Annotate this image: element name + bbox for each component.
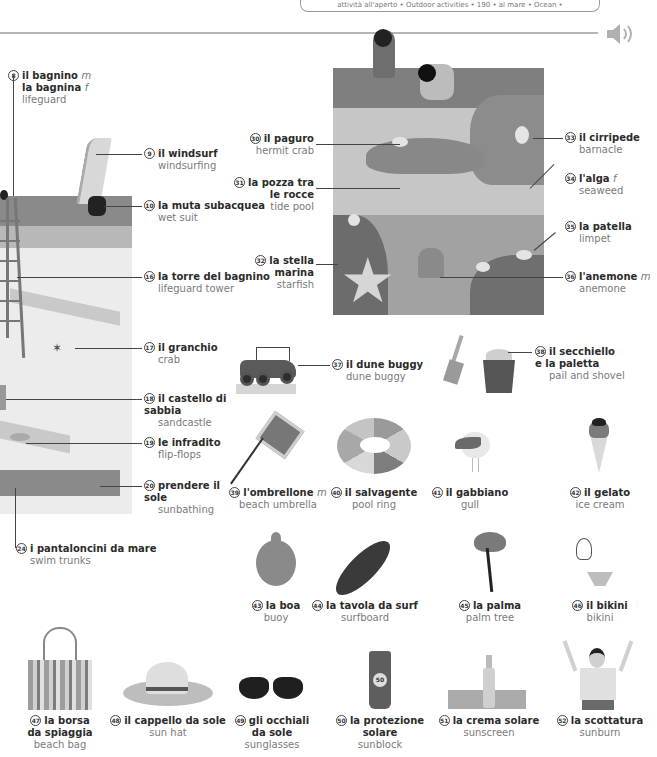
crab-figure: ✶ <box>52 342 72 354</box>
tower-rung <box>0 220 20 222</box>
leader-line <box>316 144 400 145</box>
label-windsurfing: 9il windsurf windsurfing <box>144 148 218 172</box>
chocolate-topping <box>592 418 606 426</box>
beach-bag-illustration <box>28 660 92 710</box>
sand <box>486 349 512 361</box>
ring-hole <box>360 437 390 453</box>
label-pool-ring: 40il salvagente pool ring <box>324 487 424 511</box>
label-anemone: 36l'anemone m anemone <box>565 271 651 295</box>
child-head <box>374 29 392 47</box>
label-sunscreen: 51la crema solare sunscreen <box>436 715 542 739</box>
label-limpet: 35la patella limpet <box>565 221 632 245</box>
header-rule <box>0 32 598 34</box>
tower-rung <box>0 300 20 302</box>
label-gull: 41il gabbiano gull <box>420 487 520 511</box>
bottle-cap <box>486 655 492 669</box>
leader-line <box>298 365 330 366</box>
label-bikini: 46il bikini bikini <box>550 600 650 624</box>
sunburn-illustration <box>580 668 616 700</box>
bikini-bottom-illustration <box>587 572 613 586</box>
palm-tree-illustration <box>474 532 506 552</box>
leader-line <box>26 443 142 444</box>
bikini-top-illustration <box>576 538 592 560</box>
label-sunblock: 50la protezione solare sunblock <box>335 715 425 751</box>
spf-badge: 50 <box>373 673 387 687</box>
leader-line <box>15 488 16 548</box>
leader-line <box>96 154 142 155</box>
label-sunburn: 52la scottatura sunburn <box>548 715 652 739</box>
tower-rung <box>0 280 20 282</box>
label-tide-pool: 31la pozza tra le rocce tide pool <box>230 177 314 213</box>
label-sunglasses: 49gli occhiali da sole sunglasses <box>230 715 314 751</box>
gull-leg <box>472 458 473 472</box>
label-starfish: 32la stella marina starfish <box>240 255 314 291</box>
speaker-icon[interactable] <box>605 22 637 46</box>
rock <box>470 95 544 185</box>
leader-line <box>533 138 563 139</box>
wheel <box>256 372 270 386</box>
sunglasses-illustration <box>239 677 269 699</box>
cone <box>590 435 608 473</box>
label-beach-umbrella: 39l'ombrellone m beach umbrella <box>228 487 328 511</box>
tower-leg <box>6 198 9 338</box>
label-sunbathing: 20prendere il sole sunbathing <box>144 480 224 516</box>
anemone-figure <box>418 248 444 278</box>
umbrella-pole <box>230 437 264 484</box>
child-head <box>418 64 436 82</box>
roll-cage <box>256 347 290 361</box>
sunglasses-lens <box>273 677 303 699</box>
shell <box>476 262 490 272</box>
shore-area <box>0 226 132 248</box>
shorts <box>582 700 614 710</box>
leader-line <box>100 486 142 487</box>
label-lifeguard: 8il bagnino m la bagnina f lifeguard <box>8 70 91 106</box>
wheel <box>240 372 254 386</box>
label-dune-buggy: 37il dune buggy dune buggy <box>332 359 423 383</box>
leader-line <box>75 348 142 349</box>
section-header-tab: attività all'aperto • Outdoor activities… <box>300 0 600 12</box>
leader-line <box>316 188 400 189</box>
label-crab: 17il granchio crab <box>144 342 218 366</box>
buoy-illustration <box>256 540 296 586</box>
starfish-figure: ★ <box>340 250 396 312</box>
label-sun-hat: 48il cappello da sole sun hat <box>110 715 226 739</box>
surfboard-illustration <box>328 533 397 602</box>
tower-rung <box>0 260 20 262</box>
gull-wing <box>455 437 481 449</box>
tower-rung <box>0 240 20 242</box>
label-barnacle: 33il cirripede barnacle <box>565 132 640 156</box>
label-sandcastle: 18il castello di sabbia sandcastle <box>144 393 234 429</box>
pail <box>483 360 515 393</box>
windsurf-sail <box>76 138 112 204</box>
wheel <box>280 370 294 384</box>
leader-line <box>104 206 142 207</box>
palm-trunk <box>486 548 494 592</box>
label-pail-and-shovel: 38il secchiello e la paletta pail and sh… <box>535 346 625 382</box>
leader-line <box>508 352 532 353</box>
gull-leg <box>478 458 479 472</box>
hermit-crab-shell <box>392 137 408 147</box>
beach-umbrella-illustration <box>256 411 305 459</box>
sandcastle-figure <box>0 385 6 410</box>
arm <box>619 640 634 671</box>
leader-line <box>316 264 338 265</box>
barnacle-figure <box>515 126 529 144</box>
leader-line <box>17 277 142 278</box>
tower-rung <box>0 320 20 322</box>
sunscreen-illustration <box>483 668 495 708</box>
shovel-blade <box>443 359 464 385</box>
limpet-figure <box>516 250 532 260</box>
shell <box>348 214 360 226</box>
label-ice-cream: 42il gelato ice cream <box>550 487 650 511</box>
arm <box>563 640 578 671</box>
label-surfboard: 44la tavola da surf surfboard <box>310 600 420 624</box>
label-flip-flops: 19le infradito flip-flops <box>144 437 221 461</box>
flip-flops-figure <box>10 433 30 441</box>
label-hermit-crab: 30il paguro hermit crab <box>230 133 314 157</box>
leader-line <box>440 277 563 278</box>
label-swim-trunks: 24i pantaloncini da mare swim trunks <box>16 543 157 567</box>
label-beach-bag: 47la borsa da spiaggia beach bag <box>10 715 110 751</box>
label-seaweed: 34l'alga f seaweed <box>565 173 623 197</box>
man-head <box>589 648 605 668</box>
hat-band <box>146 687 188 691</box>
